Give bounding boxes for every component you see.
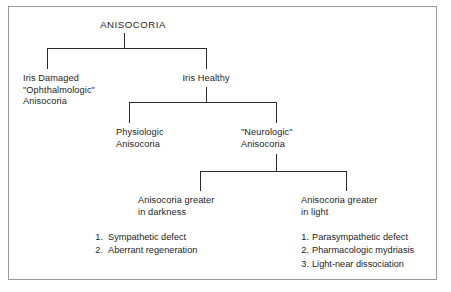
node-physiologic-line2: Anisocoria bbox=[116, 139, 164, 151]
light-cause-item-label: Pharmacologic mydriasis bbox=[312, 245, 414, 255]
node-greater-darkness-line2: in darkness bbox=[138, 207, 214, 219]
node-physiologic-anisocoria: Physiologic Anisocoria bbox=[116, 127, 164, 150]
node-anisocoria-label: ANISOCORIA bbox=[100, 19, 166, 31]
connector-to-greater-light bbox=[346, 171, 347, 191]
light-cause-item: 2.Pharmacologic mydriasis bbox=[301, 244, 414, 257]
connector-to-iris-damaged bbox=[47, 48, 48, 69]
node-greater-light-line2: in light bbox=[301, 207, 377, 219]
connector-to-iris-healthy bbox=[206, 48, 207, 69]
darkness-cause-item-number: 1. bbox=[91, 231, 103, 244]
node-greater-darkness-line1: Anisocoria greater bbox=[138, 195, 214, 207]
node-iris-damaged-line3: Anisocoria bbox=[23, 96, 95, 108]
node-neurologic-anisocoria: "Neurologic" Anisocoria bbox=[241, 127, 293, 150]
connector-neurologic-bar bbox=[200, 171, 346, 172]
node-iris-damaged-line2: "Ophthalmologic" bbox=[23, 85, 95, 97]
darkness-cause-item-number: 2. bbox=[91, 244, 103, 257]
light-cause-item-label: Light-near dissociation bbox=[312, 259, 404, 269]
darkness-cause-item: 1.Sympathetic defect bbox=[91, 231, 197, 244]
connector-neurologic-stem bbox=[276, 154, 277, 172]
light-cause-item-number: 2. bbox=[301, 244, 309, 257]
light-cause-item-number: 1. bbox=[301, 231, 309, 244]
connector-to-neurologic bbox=[276, 102, 277, 123]
node-greater-in-light: Anisocoria greater in light bbox=[301, 195, 377, 218]
node-greater-light-line1: Anisocoria greater bbox=[301, 195, 377, 207]
node-iris-healthy-label: Iris Healthy bbox=[182, 73, 229, 85]
node-neurologic-line1: "Neurologic" bbox=[241, 127, 293, 139]
light-cause-item: 3.Light-near dissociation bbox=[301, 258, 414, 271]
node-anisocoria: ANISOCORIA bbox=[100, 19, 166, 31]
light-cause-item: 1.Parasympathetic defect bbox=[301, 231, 414, 244]
connector-root-stem bbox=[124, 33, 125, 49]
connector-to-physiologic bbox=[129, 102, 130, 123]
connector-iris-healthy-stem bbox=[206, 87, 207, 103]
connector-iris-healthy-bar bbox=[129, 102, 276, 103]
darkness-cause-item-label: Sympathetic defect bbox=[108, 232, 186, 242]
connector-root-bar bbox=[47, 48, 206, 49]
darkness-cause-item-label: Aberrant regeneration bbox=[108, 245, 197, 255]
darkness-causes-list: 1.Sympathetic defect2.Aberrant regenerat… bbox=[91, 231, 197, 258]
node-physiologic-line1: Physiologic bbox=[116, 127, 164, 139]
light-cause-item-label: Parasympathetic defect bbox=[312, 232, 408, 242]
light-cause-item-number: 3. bbox=[301, 258, 309, 271]
node-iris-damaged: Iris Damaged "Ophthalmologic" Anisocoria bbox=[23, 73, 95, 108]
node-iris-damaged-line1: Iris Damaged bbox=[23, 73, 95, 85]
node-iris-healthy: Iris Healthy bbox=[182, 73, 229, 85]
connector-to-greater-darkness bbox=[200, 171, 201, 191]
darkness-cause-item: 2.Aberrant regeneration bbox=[91, 244, 197, 257]
node-neurologic-line2: Anisocoria bbox=[241, 139, 293, 151]
diagram-frame: ANISOCORIA Iris Damaged "Ophthalmologic"… bbox=[8, 6, 437, 280]
node-greater-in-darkness: Anisocoria greater in darkness bbox=[138, 195, 214, 218]
light-causes-list: 1.Parasympathetic defect2.Pharmacologic … bbox=[301, 231, 414, 271]
